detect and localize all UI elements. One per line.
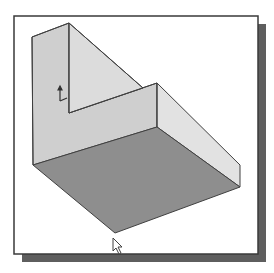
model-viewport[interactable] bbox=[0, 0, 274, 273]
